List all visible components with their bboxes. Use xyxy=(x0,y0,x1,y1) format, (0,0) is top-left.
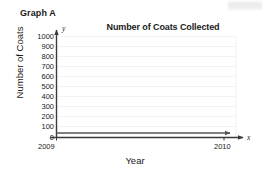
gridlines xyxy=(57,37,236,127)
plot-area xyxy=(0,0,265,175)
graph-figure: Graph A Number of Coats Collected Number… xyxy=(0,0,265,175)
